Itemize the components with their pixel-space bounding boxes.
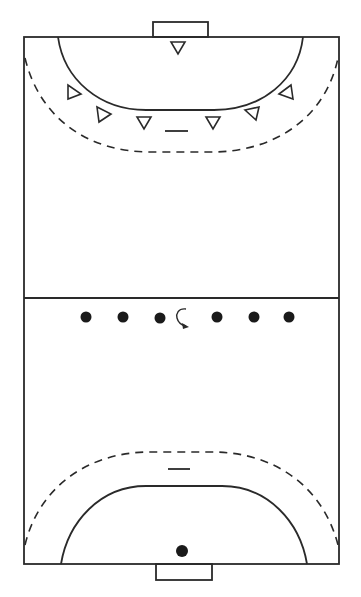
attacker-dot-5 bbox=[249, 312, 260, 323]
handball-court-diagram: Handball court: 6-0 defense vs attacking… bbox=[0, 0, 361, 597]
court-svg bbox=[0, 0, 361, 597]
attacker-dot-6 bbox=[284, 312, 295, 323]
rotate-arrow-icon bbox=[177, 309, 189, 329]
defender-right-wing-triangle bbox=[279, 85, 293, 99]
attacker-dot-4 bbox=[212, 312, 223, 323]
goalkeeper-dot bbox=[176, 545, 188, 557]
defender-right-back-triangle bbox=[245, 107, 259, 120]
defender-goalkeeper-triangle bbox=[171, 42, 185, 54]
top-goal bbox=[153, 22, 208, 37]
defender-left-wing-triangle bbox=[68, 85, 81, 99]
bottom-goal bbox=[156, 564, 212, 580]
court-boundary bbox=[24, 37, 339, 564]
defender-left-center-triangle bbox=[137, 117, 151, 129]
attacker-dot-2 bbox=[118, 312, 129, 323]
defender-left-back-triangle bbox=[97, 107, 111, 122]
attacker-dot-3 bbox=[155, 313, 166, 324]
attacker-dot-1 bbox=[81, 312, 92, 323]
defender-right-center-triangle bbox=[206, 117, 220, 129]
